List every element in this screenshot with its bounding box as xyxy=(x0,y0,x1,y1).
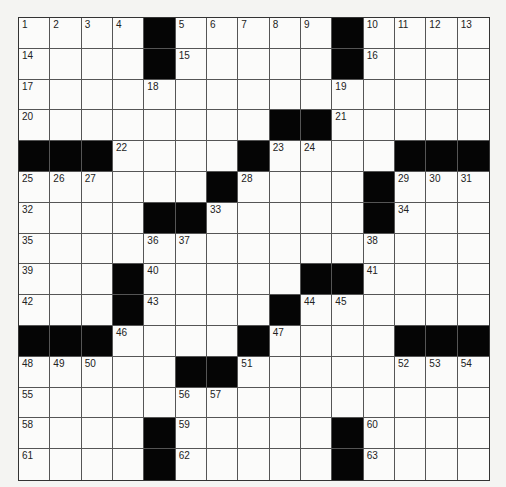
grid-cell[interactable] xyxy=(395,49,426,80)
grid-cell[interactable] xyxy=(426,110,457,141)
grid-cell[interactable]: 10 xyxy=(364,18,395,49)
grid-cell[interactable] xyxy=(82,264,113,295)
grid-cell[interactable] xyxy=(82,449,113,480)
grid-cell[interactable] xyxy=(82,388,113,419)
grid-cell[interactable] xyxy=(364,295,395,326)
grid-cell[interactable]: 9 xyxy=(301,18,332,49)
grid-cell[interactable] xyxy=(458,234,489,265)
grid-cell[interactable] xyxy=(332,172,363,203)
grid-cell[interactable]: 56 xyxy=(176,388,207,419)
grid-cell[interactable] xyxy=(144,110,175,141)
grid-cell[interactable]: 14 xyxy=(19,49,50,80)
grid-cell[interactable] xyxy=(238,295,269,326)
grid-cell[interactable]: 48 xyxy=(19,357,50,388)
grid-cell[interactable]: 37 xyxy=(176,234,207,265)
grid-cell[interactable]: 8 xyxy=(270,18,301,49)
grid-cell[interactable] xyxy=(395,80,426,111)
grid-cell[interactable] xyxy=(50,234,81,265)
grid-cell[interactable] xyxy=(426,264,457,295)
grid-cell[interactable]: 46 xyxy=(113,326,144,357)
grid-cell[interactable] xyxy=(270,449,301,480)
grid-cell[interactable] xyxy=(426,418,457,449)
grid-cell[interactable]: 63 xyxy=(364,449,395,480)
grid-cell[interactable] xyxy=(364,357,395,388)
grid-cell[interactable]: 13 xyxy=(458,18,489,49)
grid-cell[interactable]: 7 xyxy=(238,18,269,49)
grid-cell[interactable] xyxy=(458,80,489,111)
grid-cell[interactable]: 22 xyxy=(113,141,144,172)
grid-cell[interactable] xyxy=(238,264,269,295)
grid-cell[interactable]: 30 xyxy=(426,172,457,203)
grid-cell[interactable]: 16 xyxy=(364,49,395,80)
grid-cell[interactable]: 58 xyxy=(19,418,50,449)
grid-cell[interactable] xyxy=(458,295,489,326)
grid-cell[interactable] xyxy=(82,295,113,326)
grid-cell[interactable] xyxy=(176,110,207,141)
grid-cell[interactable] xyxy=(144,326,175,357)
grid-cell[interactable] xyxy=(458,49,489,80)
grid-cell[interactable] xyxy=(426,80,457,111)
grid-cell[interactable] xyxy=(113,418,144,449)
grid-cell[interactable] xyxy=(113,110,144,141)
grid-cell[interactable]: 1 xyxy=(19,18,50,49)
grid-cell[interactable] xyxy=(82,80,113,111)
grid-cell[interactable] xyxy=(426,49,457,80)
grid-cell[interactable] xyxy=(82,110,113,141)
grid-cell[interactable]: 5 xyxy=(176,18,207,49)
grid-cell[interactable] xyxy=(270,388,301,419)
grid-cell[interactable]: 25 xyxy=(19,172,50,203)
grid-cell[interactable] xyxy=(426,388,457,419)
grid-cell[interactable]: 43 xyxy=(144,295,175,326)
grid-cell[interactable] xyxy=(113,49,144,80)
grid-cell[interactable]: 12 xyxy=(426,18,457,49)
grid-cell[interactable]: 29 xyxy=(395,172,426,203)
grid-cell[interactable]: 23 xyxy=(270,141,301,172)
grid-cell[interactable] xyxy=(301,203,332,234)
grid-cell[interactable] xyxy=(207,80,238,111)
grid-cell[interactable] xyxy=(176,80,207,111)
grid-cell[interactable] xyxy=(50,418,81,449)
grid-cell[interactable] xyxy=(270,172,301,203)
grid-cell[interactable] xyxy=(50,80,81,111)
grid-cell[interactable]: 27 xyxy=(82,172,113,203)
grid-cell[interactable] xyxy=(301,449,332,480)
grid-cell[interactable] xyxy=(270,49,301,80)
grid-cell[interactable] xyxy=(238,234,269,265)
grid-cell[interactable] xyxy=(395,418,426,449)
grid-cell[interactable]: 57 xyxy=(207,388,238,419)
grid-cell[interactable]: 38 xyxy=(364,234,395,265)
grid-cell[interactable]: 60 xyxy=(364,418,395,449)
grid-cell[interactable]: 34 xyxy=(395,203,426,234)
grid-cell[interactable] xyxy=(207,326,238,357)
grid-cell[interactable] xyxy=(113,357,144,388)
grid-cell[interactable] xyxy=(332,357,363,388)
grid-cell[interactable]: 45 xyxy=(332,295,363,326)
grid-cell[interactable] xyxy=(270,203,301,234)
grid-cell[interactable] xyxy=(270,234,301,265)
grid-cell[interactable] xyxy=(144,388,175,419)
grid-cell[interactable]: 17 xyxy=(19,80,50,111)
grid-cell[interactable] xyxy=(238,449,269,480)
grid-cell[interactable] xyxy=(207,141,238,172)
grid-cell[interactable] xyxy=(50,49,81,80)
grid-cell[interactable] xyxy=(82,49,113,80)
grid-cell[interactable] xyxy=(301,326,332,357)
grid-cell[interactable]: 53 xyxy=(426,357,457,388)
grid-cell[interactable] xyxy=(50,449,81,480)
grid-cell[interactable]: 40 xyxy=(144,264,175,295)
grid-cell[interactable] xyxy=(50,110,81,141)
grid-cell[interactable] xyxy=(301,234,332,265)
grid-cell[interactable] xyxy=(301,49,332,80)
grid-cell[interactable] xyxy=(113,172,144,203)
grid-cell[interactable] xyxy=(82,418,113,449)
grid-cell[interactable]: 54 xyxy=(458,357,489,388)
grid-cell[interactable] xyxy=(238,80,269,111)
grid-cell[interactable] xyxy=(144,357,175,388)
grid-cell[interactable] xyxy=(113,203,144,234)
grid-cell[interactable] xyxy=(144,172,175,203)
grid-cell[interactable] xyxy=(113,80,144,111)
grid-cell[interactable] xyxy=(238,203,269,234)
grid-cell[interactable] xyxy=(301,388,332,419)
grid-cell[interactable] xyxy=(238,388,269,419)
grid-cell[interactable] xyxy=(301,80,332,111)
